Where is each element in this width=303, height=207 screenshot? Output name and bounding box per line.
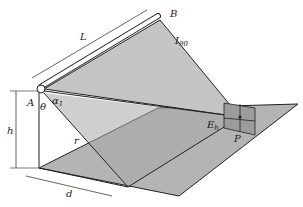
label-b: B	[169, 8, 177, 19]
label-p: P	[233, 133, 241, 144]
end-a-marker	[37, 85, 45, 93]
label-a: A	[26, 97, 34, 108]
label-l: L	[79, 31, 87, 42]
label-d: d	[66, 188, 72, 199]
point-p-marker	[239, 116, 242, 119]
diagram-canvas: L B I90 A α1 θ r h d Eh P	[0, 0, 303, 207]
label-theta: θ	[40, 101, 46, 112]
label-h: h	[7, 125, 13, 136]
label-r: r	[74, 135, 80, 146]
